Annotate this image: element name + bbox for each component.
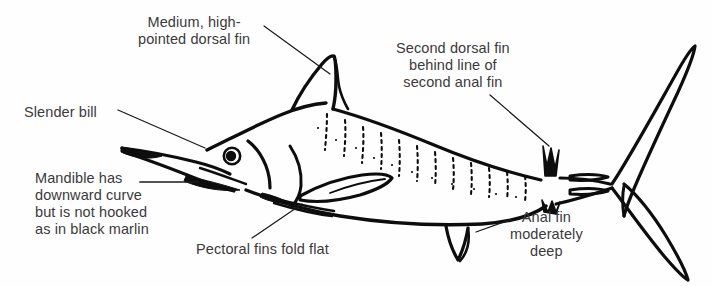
eye-pupil bbox=[226, 151, 236, 161]
callout-mandible: Mandible has downward curve but is not h… bbox=[35, 170, 149, 238]
lateral-stripes bbox=[325, 114, 526, 201]
callout-anal-fin: Anal fin moderately deep bbox=[510, 209, 583, 260]
head-top bbox=[248, 141, 270, 188]
marlin-diagram-figure: Medium, high- pointed dorsal fin Second … bbox=[0, 0, 712, 286]
marlin-illustration bbox=[0, 0, 712, 286]
callout-slender-bill: Slender bill bbox=[24, 104, 97, 121]
fish-back-outline bbox=[207, 103, 326, 150]
first-dorsal-fin bbox=[292, 56, 336, 110]
caudal-fin-inner-fork bbox=[623, 186, 625, 216]
leader-pectoral bbox=[252, 204, 302, 238]
callout-medium-dorsal-fin: Medium, high- pointed dorsal fin bbox=[138, 14, 250, 48]
leader-second-dorsal bbox=[490, 95, 549, 146]
callout-pectoral-fins: Pectoral fins fold flat bbox=[196, 241, 329, 258]
leader-slender-bill bbox=[118, 110, 205, 148]
callout-second-dorsal-fin: Second dorsal fin behind line of second … bbox=[396, 40, 510, 91]
peduncle-bottom-line bbox=[556, 188, 612, 204]
pelvic-filament-base bbox=[260, 193, 290, 203]
leader-medium-dorsal bbox=[264, 26, 330, 74]
second-dorsal-fin bbox=[543, 146, 559, 176]
